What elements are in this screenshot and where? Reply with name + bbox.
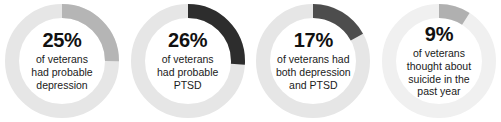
stat-card-ptsd: 26% of veterans had probable PTSD — [128, 0, 248, 122]
stat-value-ptsd: 26% — [168, 30, 207, 50]
stat-card-suicidal-ideation: 9% of veterans thought about suicide in … — [379, 0, 499, 122]
stat-card-depression: 25% of veterans had probable depression — [2, 0, 122, 122]
stat-text-ptsd: 26% of veterans had probable PTSD — [132, 30, 244, 91]
stat-card-both-depression-ptsd: 17% of veterans had both depression and … — [253, 0, 373, 122]
stat-text-depression: 25% of veterans had probable depression — [6, 30, 118, 91]
stat-label-both-depression-ptsd: of veterans had both depression and PTSD — [276, 53, 351, 91]
stat-label-suicidal-ideation: of veterans thought about suicide in the… — [407, 47, 471, 98]
stat-text-both-depression-ptsd: 17% of veterans had both depression and … — [257, 30, 369, 91]
stat-value-both-depression-ptsd: 17% — [294, 30, 333, 50]
stat-value-suicidal-ideation: 9% — [425, 24, 453, 44]
stat-text-suicidal-ideation: 9% of veterans thought about suicide in … — [383, 24, 495, 98]
stat-value-depression: 25% — [42, 30, 81, 50]
stat-label-ptsd: of veterans had probable PTSD — [157, 53, 218, 91]
stat-label-depression: of veterans had probable depression — [31, 53, 92, 91]
veteran-mental-health-stats-infographic: 25% of veterans had probable depression … — [0, 0, 501, 122]
